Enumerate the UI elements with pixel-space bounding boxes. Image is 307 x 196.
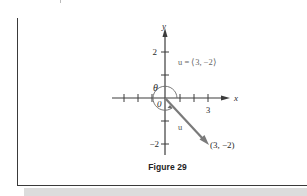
y-tick-label-2: 2 <box>153 47 158 57</box>
figure-caption: Figure 29 <box>0 162 307 172</box>
x-axis-arrow-icon <box>221 96 230 101</box>
x-tick-label-3: 3 <box>206 105 210 115</box>
x-axis <box>112 94 230 102</box>
figure-caption-text: Figure 29 <box>148 162 187 172</box>
point-label: (3, −2) <box>210 140 235 150</box>
y-tick-label-neg2: −2 <box>149 139 159 149</box>
vector-definition: u = ⟨3, −2⟩ <box>178 57 217 67</box>
theta-label: θ <box>153 82 158 93</box>
y-axis <box>161 28 169 155</box>
vector-label: u <box>178 122 183 132</box>
y-axis-label: y <box>161 21 166 31</box>
vector-u <box>165 98 209 145</box>
origin-label: 0 <box>157 99 162 109</box>
x-axis-label: x <box>233 93 238 103</box>
